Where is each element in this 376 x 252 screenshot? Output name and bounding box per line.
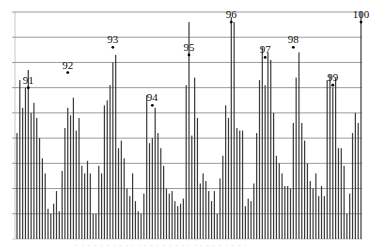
- bar: [67, 108, 68, 239]
- bar: [211, 201, 212, 239]
- footer-caption: · · · · · · · · · · · · · · · · · · · · …: [75, 240, 365, 250]
- bar: [28, 70, 29, 239]
- bar: [239, 131, 240, 239]
- bar: [281, 173, 282, 239]
- bar: [47, 209, 48, 239]
- bar: [250, 201, 251, 239]
- peak-label: 97: [260, 43, 272, 55]
- bar: [270, 60, 271, 239]
- bar: [124, 158, 125, 239]
- bar: [42, 158, 43, 239]
- bar: [273, 113, 274, 239]
- bar: [180, 204, 181, 239]
- peak-label: 93: [107, 33, 119, 45]
- bar: [318, 196, 319, 239]
- bar: [126, 189, 127, 239]
- bar: [279, 163, 280, 239]
- bar: [301, 123, 302, 239]
- bar: [276, 156, 277, 239]
- bar: [214, 191, 215, 239]
- bar: [149, 143, 150, 239]
- bar: [352, 133, 353, 239]
- bar: [327, 80, 328, 239]
- bar: [259, 80, 260, 239]
- peak-label: 98: [288, 33, 300, 45]
- bar: [177, 206, 178, 239]
- bar: [138, 211, 139, 239]
- bar: [90, 173, 91, 239]
- bar: [256, 133, 257, 239]
- bar: [73, 98, 74, 239]
- bar: [360, 12, 361, 239]
- bar: [19, 80, 20, 239]
- bar: [76, 131, 77, 239]
- peak-marker: [151, 104, 154, 107]
- bar: [315, 173, 316, 239]
- bar-chart: 919293949596979899100: [0, 0, 376, 252]
- bar: [16, 133, 17, 239]
- bar: [287, 186, 288, 239]
- bar: [183, 199, 184, 239]
- bar: [140, 214, 141, 239]
- bar: [205, 181, 206, 239]
- peak-marker: [111, 46, 114, 49]
- bar: [343, 166, 344, 239]
- bar: [231, 17, 232, 239]
- bar: [349, 194, 350, 239]
- bar: [346, 214, 347, 239]
- bar: [312, 189, 313, 239]
- bar: [36, 118, 37, 239]
- bar: [304, 141, 305, 239]
- bar: [132, 173, 133, 239]
- bar: [30, 113, 31, 239]
- bar: [143, 194, 144, 239]
- bar: [298, 52, 299, 239]
- bar: [39, 138, 40, 239]
- bar: [332, 88, 333, 239]
- bar: [200, 184, 201, 239]
- bar: [98, 166, 99, 239]
- bar: [95, 214, 96, 239]
- peak-marker: [66, 71, 69, 74]
- bar: [160, 148, 161, 239]
- peak-label: 94: [147, 91, 159, 103]
- bar: [290, 189, 291, 239]
- bar: [171, 191, 172, 239]
- bar: [307, 163, 308, 239]
- bar: [84, 173, 85, 239]
- bar: [22, 108, 23, 239]
- bar: [129, 196, 130, 239]
- bar: [338, 148, 339, 239]
- peak-annotations: 919293949596979899100: [23, 8, 370, 107]
- bar: [25, 88, 26, 239]
- bar: [293, 123, 294, 239]
- bar: [358, 123, 359, 239]
- bar: [191, 136, 192, 239]
- bar: [225, 105, 226, 239]
- bar: [262, 47, 263, 239]
- bar: [78, 118, 79, 239]
- peak-marker: [27, 86, 30, 89]
- bar: [324, 196, 325, 239]
- bar: [152, 138, 153, 239]
- bar: [70, 115, 71, 239]
- bar: [335, 78, 336, 239]
- peak-marker: [331, 84, 334, 87]
- bar: [174, 201, 175, 239]
- peak-marker: [360, 21, 363, 24]
- bar: [321, 186, 322, 239]
- bar: [155, 108, 156, 239]
- bar: [329, 75, 330, 239]
- bar: [234, 22, 235, 239]
- bar: [109, 85, 110, 239]
- bar: [228, 118, 229, 239]
- bar: [56, 191, 57, 239]
- bar: [64, 128, 65, 239]
- bar: [45, 173, 46, 239]
- bar: [33, 103, 34, 239]
- peak-label: 95: [184, 41, 196, 53]
- bar: [236, 128, 237, 239]
- bar: [186, 85, 187, 239]
- bar: [166, 189, 167, 239]
- peak-label: 100: [353, 8, 370, 20]
